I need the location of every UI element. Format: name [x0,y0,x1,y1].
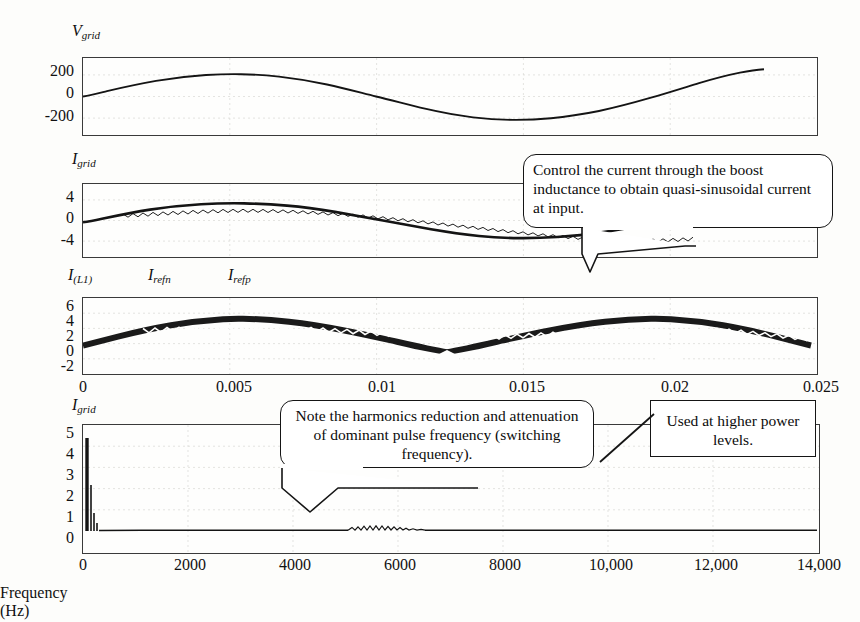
spectrum-xtick-8000: 8000 [470,556,540,574]
irefp-signal-label: Irefp [228,266,251,285]
il1-zero-notch-2 [657,348,683,374]
spectrum-xtick-12000: 12,000 [675,556,757,574]
spectrum-ytick-4: 4 [18,445,74,463]
vgrid-ytick-200: 200 [18,62,74,80]
il1-xtick-0.02: 0.02 [645,378,705,396]
callout-boost-inductance-tail [520,224,710,284]
callout-power-levels-tail [594,410,660,472]
il1-xtick-0.005: 0.005 [199,378,269,396]
vgrid-gridlines [83,58,817,135]
igrid-ytick-0: 0 [18,209,74,227]
il1-xtick-0: 0 [62,378,104,396]
igrid-signal-label: Igrid [72,150,96,169]
spectrum-ytick-2: 2 [18,487,74,505]
spectrum-signal-label: Igrid [72,396,96,415]
spectrum-xtick-10000: 10,000 [570,556,652,574]
il1-plot-area [82,297,818,375]
callout-power-levels-text: Used at higher power levels. [651,406,815,454]
spectrum-xtick-14000: 14,000 [778,556,860,574]
vgrid-ytick-neg200: -200 [18,107,74,125]
vgrid-plot-area [82,57,818,136]
vgrid-signal-label: Vgrid [72,22,100,41]
spectrum-xtick-0: 0 [62,556,104,574]
spectrum-ytick-0: 0 [18,529,74,547]
il1-xtick-0.015: 0.015 [492,378,562,396]
il1-ytick-neg2: -2 [18,357,74,375]
spectrum-ytick-3: 3 [18,466,74,484]
il1-chart-svg [83,298,817,374]
callout-boost-inductance-text: Control the current through the boost in… [524,155,832,223]
callout-boost-inductance[interactable]: Control the current through the boost in… [523,154,833,228]
il1-hysteresis-band [83,319,811,352]
igrid-ytick-neg4: -4 [18,231,74,249]
callout-harmonics-text: Note the harmonics reduction and attenua… [281,401,593,469]
figure-root: Vgrid 200 0 -200 Igrid 4 [0,0,860,622]
spectrum-xtick-2000: 2000 [155,556,225,574]
il1-xtick-0.025: 0.025 [786,378,856,396]
irefn-signal-label: Irefn [148,266,171,285]
vgrid-waveform [83,69,764,120]
callout-harmonics-tail [278,464,478,524]
spectrum-ytick-5: 5 [18,424,74,442]
callout-power-levels[interactable]: Used at higher power levels. [650,400,816,457]
callout-harmonics[interactable]: Note the harmonics reduction and attenua… [280,400,594,468]
spectrum-xtick-4000: 4000 [260,556,330,574]
spectrum-ytick-1: 1 [18,508,74,526]
spectrum-xtick-6000: 6000 [365,556,435,574]
spectrum-switching-cluster [348,526,425,530]
vgrid-ytick-0: 0 [18,84,74,102]
spectrum-harmonic-cluster-low [91,485,97,531]
il1-signal-label: I(L1) [68,266,92,285]
igrid-ytick-4: 4 [18,188,74,206]
il1-xtick-0.01: 0.01 [352,378,412,396]
vgrid-chart-svg [83,58,817,135]
